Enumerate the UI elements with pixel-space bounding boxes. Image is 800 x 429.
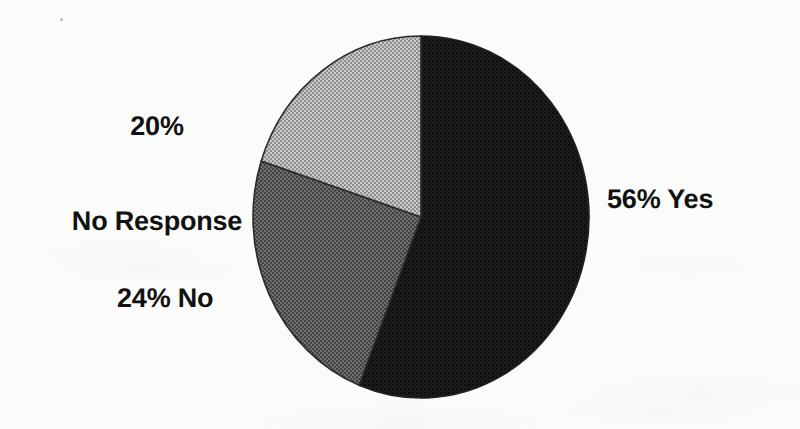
slice-label-no-response-name: No Response xyxy=(42,206,272,238)
slice-label-no: 24% No xyxy=(117,283,213,315)
slice-label-no-response-percent: 20% xyxy=(42,111,272,143)
pie-chart-figure: 20% No Response 56% Yes 24% No xyxy=(0,0,800,429)
slice-label-no-response: 20% No Response xyxy=(42,48,272,301)
slice-label-yes: 56% Yes xyxy=(607,184,713,216)
